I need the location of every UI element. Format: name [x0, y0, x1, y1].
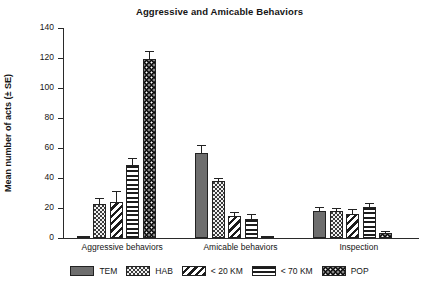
bar [228, 216, 241, 239]
error-bar [218, 179, 219, 181]
legend-swatch [252, 266, 276, 276]
bar [363, 207, 376, 239]
error-bar [385, 232, 386, 233]
error-bar [319, 208, 320, 211]
y-tick: 0 [58, 238, 63, 239]
y-tick-label: 80 [45, 112, 54, 122]
y-tick-label: 100 [40, 82, 54, 92]
legend-swatch [126, 266, 150, 276]
bar [245, 219, 258, 239]
y-tick: 140 [58, 28, 63, 29]
bar [212, 181, 225, 238]
bar-group-item [195, 28, 208, 238]
bar-group-item [93, 28, 106, 238]
x-axis-category-label: Aggressive behaviors [63, 242, 181, 252]
chart-title: Aggressive and Amicable Behaviors [0, 6, 439, 17]
bar [143, 59, 156, 238]
error-bar-cap [315, 207, 324, 208]
legend-label: POP [351, 266, 369, 276]
legend-swatch [322, 266, 346, 276]
bar [93, 204, 106, 239]
legend-label: HAB [155, 266, 172, 276]
error-bar-cap [197, 145, 206, 146]
bar-group-item [212, 28, 225, 238]
error-bar [251, 215, 252, 219]
y-tick-label: 140 [40, 22, 54, 32]
plot-area: 020406080100120140 [63, 28, 418, 238]
bar-group-item [313, 28, 326, 238]
error-bar [99, 199, 100, 204]
y-tick-label: 40 [45, 172, 54, 182]
y-tick-label: 20 [45, 202, 54, 212]
error-bar [201, 146, 202, 153]
bar [126, 165, 139, 239]
legend-item-20-km[interactable]: < 20 KM [182, 266, 243, 276]
legend-item-tem[interactable]: TEM [70, 266, 117, 276]
error-bar-cap [95, 198, 104, 199]
bar-group-item [143, 28, 156, 238]
error-bar-cap [128, 158, 137, 159]
chart-legend: TEMHAB< 20 KM< 70 KMPOP [0, 266, 439, 276]
bar-group-item [346, 28, 359, 238]
legend-label: < 70 KM [281, 266, 313, 276]
y-tick-label: 60 [45, 142, 54, 152]
bar-group-item [245, 28, 258, 238]
bar [379, 233, 392, 238]
error-bar-cap [145, 51, 154, 52]
error-bar-cap [381, 231, 390, 232]
bar [77, 236, 90, 238]
y-tick-label: 120 [40, 52, 54, 62]
error-bar [369, 204, 370, 206]
bar [330, 211, 343, 238]
bar-group-item [363, 28, 376, 238]
bar-chart: Aggressive and Amicable Behaviors Mean n… [0, 0, 439, 297]
y-tick: 100 [58, 88, 63, 89]
error-bar-cap [247, 214, 256, 215]
error-bar-cap [348, 209, 357, 210]
y-tick: 120 [58, 58, 63, 59]
legend-swatch [70, 266, 94, 276]
x-axis-category-label: Amicable behaviors [181, 242, 299, 252]
error-bar-cap [214, 178, 223, 179]
legend-label: < 20 KM [211, 266, 243, 276]
y-tick: 60 [58, 148, 63, 149]
bar-group-item [77, 28, 90, 238]
bar-group-item [261, 28, 274, 238]
error-bar [336, 209, 337, 211]
bar [346, 214, 359, 238]
error-bar [352, 210, 353, 214]
legend-item-pop[interactable]: POP [322, 266, 369, 276]
bar-group-item [126, 28, 139, 238]
error-bar-cap [230, 212, 239, 213]
y-axis-label: Mean number of acts (± SE) [3, 28, 15, 238]
x-axis-line [63, 238, 419, 239]
error-bar [116, 192, 117, 203]
legend-label: TEM [99, 266, 117, 276]
y-tick: 80 [58, 118, 63, 119]
bar [313, 211, 326, 238]
bar [195, 153, 208, 239]
y-tick: 40 [58, 178, 63, 179]
bar-group-item [110, 28, 123, 238]
error-bar-cap [112, 191, 121, 192]
bar [261, 236, 274, 238]
y-tick: 20 [58, 208, 63, 209]
error-bar [234, 213, 235, 216]
error-bar [149, 52, 150, 59]
error-bar [132, 159, 133, 165]
y-tick-label: 0 [49, 232, 54, 242]
legend-swatch [182, 266, 206, 276]
legend-item-70-km[interactable]: < 70 KM [252, 266, 313, 276]
bar-group-item [379, 28, 392, 238]
error-bar-cap [332, 208, 341, 209]
bar-group-item [330, 28, 343, 238]
error-bar-cap [365, 203, 374, 204]
legend-item-hab[interactable]: HAB [126, 266, 172, 276]
bar-group-item [228, 28, 241, 238]
bar [110, 202, 123, 238]
x-axis-category-label: Inspection [300, 242, 418, 252]
